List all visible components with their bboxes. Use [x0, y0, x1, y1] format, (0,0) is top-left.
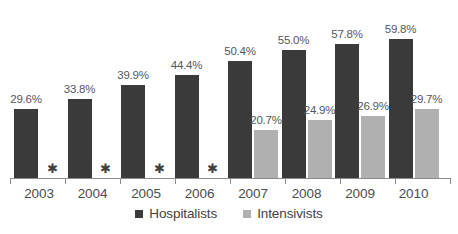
bar-value-label: 55.0% [274, 34, 314, 46]
bar-value-label: 20.7% [246, 114, 286, 126]
legend-swatch-icon [243, 210, 251, 218]
x-axis-tick [285, 178, 286, 184]
x-axis-label-2007: 2007 [226, 186, 280, 201]
bar-hospitalists-2003 [14, 109, 38, 178]
bar-value-label: 57.8% [327, 28, 367, 40]
x-axis-tick [395, 178, 396, 184]
legend-label: Intensivists [257, 206, 323, 221]
bar-value-label: 26.9% [353, 100, 393, 112]
x-axis-tick [230, 178, 231, 184]
bar-intensivists-2007 [254, 130, 278, 178]
bar-hospitalists-2006 [175, 75, 199, 178]
missing-data-marker: ✱ [94, 162, 118, 175]
x-axis-tick [10, 178, 11, 184]
x-axis-label-2003: 2003 [12, 186, 66, 201]
x-axis-tick [450, 178, 451, 184]
bar-intensivists-2009 [361, 116, 385, 178]
bar-value-label: 29.7% [407, 93, 447, 105]
bar-chart: 29.6%✱33.8%✱39.9%✱44.4%✱50.4%20.7%55.0%2… [0, 0, 458, 234]
x-axis-tick [340, 178, 341, 184]
x-axis-label-2008: 2008 [280, 186, 334, 201]
bar-value-label: 59.8% [381, 23, 421, 35]
bar-hospitalists-2010 [389, 39, 413, 178]
x-axis-label-2004: 2004 [66, 186, 120, 201]
missing-data-marker: ✱ [40, 162, 64, 175]
missing-data-marker: ✱ [201, 162, 225, 175]
bar-value-label: 44.4% [167, 59, 207, 71]
bar-value-label: 50.4% [220, 45, 260, 57]
bar-intensivists-2010 [415, 109, 439, 178]
bar-value-label: 24.9% [300, 104, 340, 116]
legend-item-hospitalists[interactable]: Hospitalists [135, 206, 217, 221]
plot-area: 29.6%✱33.8%✱39.9%✱44.4%✱50.4%20.7%55.0%2… [0, 0, 458, 178]
bar-value-label: 29.6% [6, 93, 46, 105]
bar-value-label: 33.8% [60, 83, 100, 95]
bar-hospitalists-2004 [68, 99, 92, 178]
x-axis-tick [120, 178, 121, 184]
chart-legend: HospitalistsIntensivists [0, 206, 458, 221]
x-axis-label-2005: 2005 [119, 186, 173, 201]
x-axis-label-2009: 2009 [333, 186, 387, 201]
x-axis-tick [65, 178, 66, 184]
bar-value-label: 39.9% [113, 69, 153, 81]
x-axis-label-2006: 2006 [173, 186, 227, 201]
legend-item-intensivists[interactable]: Intensivists [243, 206, 323, 221]
legend-swatch-icon [135, 210, 143, 218]
x-axis-tick [175, 178, 176, 184]
bar-intensivists-2008 [308, 120, 332, 178]
x-axis-category-labels: 20032004200520062007200820092010 [0, 186, 458, 208]
missing-data-marker: ✱ [147, 162, 171, 175]
x-axis-label-2010: 2010 [387, 186, 441, 201]
bar-hospitalists-2005 [121, 85, 145, 178]
legend-label: Hospitalists [149, 206, 217, 221]
